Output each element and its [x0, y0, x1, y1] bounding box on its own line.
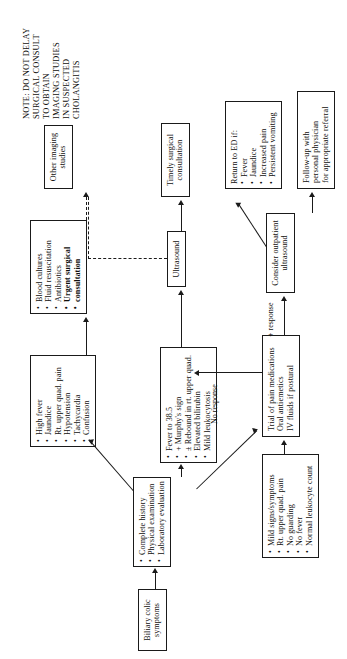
list-item: Fever to 38.5	[165, 352, 174, 458]
list-item: High fever	[35, 360, 44, 442]
connector-cholecystitis-to-ultrasound	[181, 295, 182, 347]
edge-label-plus-response: + response	[266, 302, 275, 337]
connector-severe-to-treatment	[86, 322, 87, 355]
node-return-to-ed: Return to ED if: Fever Jaundice Increase…	[225, 101, 282, 189]
node-line: Biliary colic	[143, 595, 152, 645]
node-line: IV fluids if postural	[286, 341, 295, 431]
node-line: studies	[58, 131, 67, 183]
list-item: Physical examination	[147, 482, 156, 562]
connector-workup-to-severe-signs	[89, 439, 134, 491]
node-severe-signs: High fever Jaundice Rt. upper quad. pain…	[30, 355, 96, 447]
list-item: Persistent vomiting	[268, 106, 277, 184]
arrowhead	[178, 290, 184, 295]
arrowhead	[281, 440, 287, 445]
node-line: consultation	[175, 129, 184, 191]
connector-start-to-workup	[155, 573, 156, 589]
arrowhead	[178, 200, 184, 205]
list-item: No fever	[295, 459, 304, 553]
cholangitis-warning-note: NOTE: DO NOT DELAY SURGICAL CONSULT TO O…	[22, 28, 82, 119]
node-cholangitis-treatment: Blood cultures Fluid resuscitation Antib…	[30, 220, 87, 314]
arrowhead	[252, 426, 259, 433]
connector-outpatient-us-to-return-ed	[238, 203, 267, 247]
list-item: Complete history	[138, 482, 147, 562]
list-item: Jaundice	[44, 360, 53, 442]
list-item-continuation: consultation	[73, 225, 82, 309]
list-item: Increased pain	[259, 106, 268, 184]
connector-ultrasound-to-other-imaging-horizontal	[88, 197, 89, 259]
arrowhead	[309, 192, 315, 197]
node-line: Ultrasound	[172, 237, 181, 281]
list-item: Fluid resuscitation	[44, 225, 53, 309]
arrowhead	[194, 370, 199, 376]
connector-ultrasound-to-timely-surgical	[181, 205, 182, 231]
node-follow-up: Follow-up with personal physician for ap…	[297, 91, 335, 189]
list-item: No guarding	[286, 459, 295, 553]
note-line: IMAGING STUDIES	[52, 28, 62, 119]
connector-ultrasound-to-other-imaging-vertical	[88, 258, 167, 259]
node-consider-outpatient-ultrasound: Consider outpatient ultrasound	[266, 213, 295, 293]
arrowhead	[83, 317, 89, 322]
list-item: Laboratory evaluation	[157, 482, 166, 562]
note-line: SURGICAL CONSULT	[32, 28, 42, 119]
edge-label-no-response: No response	[210, 384, 219, 424]
arrowhead	[152, 568, 158, 573]
connector-treatment-to-other-imaging	[86, 197, 87, 220]
list-item: + Murphy's sign	[174, 352, 183, 458]
note-line: IN SUSPECTED	[62, 28, 72, 119]
node-biliary-colic-symptoms: Biliary colic symptoms	[138, 589, 167, 651]
arrowhead	[178, 464, 184, 469]
connector-mild-to-pain-trial	[284, 445, 285, 454]
list-item: Fever	[240, 106, 249, 184]
node-other-imaging-studies: Other imaging studies	[44, 125, 73, 189]
note-line: TO OBTAIN	[42, 28, 52, 119]
node-line: Timely surgical	[166, 129, 175, 191]
node-ultrasound: Ultrasound	[167, 231, 186, 287]
node-acute-cholecystitis-findings: Fever to 38.5 + Murphy's sign ± Rebound …	[160, 347, 217, 463]
list-item: Blood cultures	[35, 225, 44, 309]
arrowhead	[281, 296, 287, 301]
node-initial-workup: Complete history Physical examination La…	[133, 477, 171, 567]
list-item: Normal leukocyte count	[305, 459, 314, 553]
list-item: Confusion	[82, 360, 91, 442]
node-line: Consider outpatient	[271, 219, 280, 287]
list-item: Urgent surgical	[63, 225, 72, 309]
node-line: Follow-up with	[302, 97, 311, 183]
node-line: personal physician	[311, 97, 320, 183]
list-item: Jaundice	[249, 106, 258, 184]
node-line: Trial of pain medications	[267, 341, 276, 431]
list-item: Elevated bilirubin	[193, 352, 202, 458]
connector-pain-trial-to-outpatient-us	[284, 301, 285, 335]
list-item: ± Rebound in rt. upper quad.	[184, 352, 193, 458]
list-item: Rt. upper quad. pain	[276, 459, 285, 553]
list-item: Hypotension	[63, 360, 72, 442]
note-line: NOTE: DO NOT DELAY	[22, 28, 32, 119]
list-item: Rt. upper quad. pain	[54, 360, 63, 442]
note-line: CHOLANGITIS	[72, 28, 82, 119]
node-header: Return to ED if:	[230, 106, 239, 184]
list-item: Tachycardia	[73, 360, 82, 442]
node-line: Other imaging	[49, 131, 58, 183]
node-line: ultrasound	[280, 219, 289, 287]
node-mild-signs: Mild signs/symptoms Rt. upper quad. pain…	[262, 454, 319, 558]
flowchart-canvas: Biliary colic symptoms Complete history …	[0, 0, 347, 659]
list-item: Antibiotics	[54, 225, 63, 309]
connector-outpatient-us-to-followup	[312, 197, 313, 213]
list-item: Mild signs/symptoms	[267, 459, 276, 553]
connector-workup-to-cholecystitis	[181, 469, 182, 477]
node-line: symptoms	[152, 595, 161, 645]
node-line: for appropriate referral	[321, 97, 330, 183]
node-line: Oral antiemetics	[276, 341, 285, 431]
node-timely-surgical-consultation: Timely surgical consultation	[161, 123, 190, 197]
list-item-continuation-text: consultation	[73, 259, 82, 302]
connector-no-response-vertical	[199, 372, 262, 373]
rotated-page-wrapper: Biliary colic symptoms Complete history …	[0, 0, 347, 659]
node-pain-medication-trial: Trial of pain medications Oral antiemeti…	[262, 335, 300, 437]
